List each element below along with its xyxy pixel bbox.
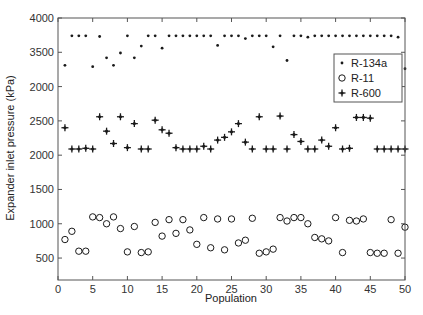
circle-marker — [284, 218, 290, 224]
circle-marker — [194, 241, 200, 247]
dot-marker — [293, 34, 296, 37]
legend: R-134aR-11R-600 — [334, 54, 402, 102]
plus-marker — [186, 146, 193, 153]
circle-marker — [298, 214, 304, 220]
circle-marker — [305, 221, 311, 227]
plus-marker — [179, 146, 186, 153]
plus-marker — [284, 146, 291, 153]
x-tick-label: 40 — [329, 283, 341, 295]
dot-marker — [230, 34, 233, 37]
dot-marker — [334, 34, 337, 37]
dot-marker — [91, 65, 94, 68]
x-tick-label: 45 — [364, 283, 376, 295]
dot-marker — [397, 36, 400, 39]
dot-marker — [300, 34, 303, 37]
circle-marker — [381, 250, 387, 256]
dot-marker — [341, 34, 344, 37]
circle-marker — [166, 216, 172, 222]
dot-marker — [383, 34, 386, 37]
circle-marker — [270, 246, 276, 252]
dot-marker — [182, 34, 185, 37]
circle-marker — [138, 249, 144, 255]
y-tick-label: 4000 — [30, 12, 54, 24]
dot-marker — [168, 34, 171, 37]
y-tick-label: 1500 — [30, 183, 54, 195]
y-tick-label: 2500 — [30, 115, 54, 127]
circle-marker — [96, 214, 102, 220]
dot-marker — [98, 35, 101, 38]
plus-marker — [297, 138, 304, 145]
plus-marker — [235, 120, 242, 127]
circle-marker — [69, 228, 75, 234]
dot-marker — [147, 34, 150, 37]
dot-marker — [362, 34, 365, 37]
dot-marker — [369, 34, 372, 37]
x-tick-label: 30 — [260, 283, 272, 295]
circle-marker — [374, 250, 380, 256]
circle-marker — [353, 218, 359, 224]
plus-marker — [96, 113, 103, 120]
plus-marker — [346, 145, 353, 152]
y-axis-label: Expander inlet pressure (kPa) — [4, 75, 16, 221]
x-tick-label: 5 — [90, 283, 96, 295]
plus-marker — [200, 143, 207, 150]
plus-marker — [360, 114, 367, 121]
circle-marker — [235, 240, 241, 246]
plus-marker — [353, 114, 360, 121]
dot-marker — [119, 52, 122, 55]
dot-marker — [202, 34, 205, 37]
circle-marker — [291, 214, 297, 220]
legend-label: R-134a — [351, 57, 388, 69]
y-tick-label: 500 — [36, 252, 54, 264]
circle-marker — [62, 236, 68, 242]
legend-label: R-600 — [351, 87, 381, 99]
plus-marker — [339, 146, 346, 153]
series-r-11 — [62, 214, 408, 257]
plus-marker — [214, 137, 221, 144]
circle-marker — [325, 238, 331, 244]
dot-marker — [272, 45, 275, 48]
dot-marker — [175, 34, 178, 37]
dot-marker — [154, 34, 157, 37]
plus-marker — [332, 124, 339, 131]
dot-marker — [64, 64, 67, 67]
x-tick-label: 0 — [55, 283, 61, 295]
dot-marker — [286, 59, 289, 62]
x-tick-label: 15 — [156, 283, 168, 295]
plus-marker — [311, 146, 318, 153]
plus-marker — [277, 113, 284, 120]
circle-marker — [388, 216, 394, 222]
plus-marker — [159, 126, 166, 133]
dot-marker — [327, 34, 330, 37]
plus-marker — [388, 146, 395, 153]
plus-marker — [103, 128, 110, 135]
plus-marker — [374, 146, 381, 153]
dot-marker — [320, 34, 323, 37]
dot-marker — [126, 34, 129, 37]
plus-marker — [318, 137, 325, 144]
circle-marker — [312, 234, 318, 240]
plus-marker — [395, 146, 402, 153]
circle-marker — [90, 214, 96, 220]
dot-marker — [140, 45, 143, 48]
plus-marker — [68, 146, 75, 153]
dot-marker — [195, 34, 198, 37]
plus-marker — [249, 146, 256, 153]
plus-marker — [381, 146, 388, 153]
circle-marker — [110, 214, 116, 220]
plus-marker — [270, 146, 277, 153]
x-tick-label: 10 — [121, 283, 133, 295]
dot-marker — [348, 34, 351, 37]
circle-marker — [145, 249, 151, 255]
plus-marker — [193, 146, 200, 153]
y-tick-label: 2000 — [30, 81, 54, 93]
plus-marker — [228, 128, 235, 135]
dot-marker — [112, 64, 115, 67]
plus-marker — [367, 115, 374, 122]
series-r-600 — [61, 113, 408, 153]
dot-marker — [223, 34, 226, 37]
circle-marker — [173, 230, 179, 236]
circle-marker — [83, 248, 89, 254]
circle-marker — [339, 249, 345, 255]
plus-marker — [172, 144, 179, 151]
